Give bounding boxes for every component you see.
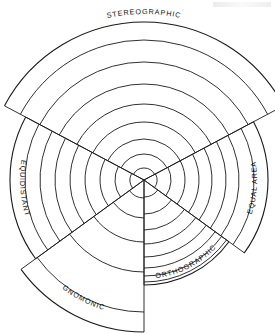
parallel-arc bbox=[55, 138, 72, 232]
parallel-arc bbox=[144, 225, 206, 257]
parallel-arc bbox=[59, 84, 229, 135]
label-stereographic: STEREOGRAPHIC bbox=[106, 7, 182, 20]
parallel-arc bbox=[77, 104, 211, 144]
parallel-arc bbox=[70, 234, 144, 272]
sector-boundary-line bbox=[26, 117, 144, 180]
parallel-arc bbox=[199, 148, 212, 220]
parallel-arc bbox=[177, 161, 185, 204]
parallel-arc bbox=[113, 202, 144, 218]
parallel-arc bbox=[25, 124, 48, 250]
label-equidistant: EQUIDISTANT bbox=[18, 160, 32, 218]
parallel-arc bbox=[133, 168, 154, 174]
parallel-arc bbox=[189, 154, 200, 212]
sector-arc-group bbox=[4, 22, 275, 332]
parallel-arc bbox=[40, 131, 60, 241]
parallel-arc bbox=[93, 122, 195, 153]
parallel-arc bbox=[4, 22, 275, 106]
parallel-arc bbox=[94, 216, 144, 242]
parallel-arc bbox=[144, 190, 158, 197]
sector-label-group: STEREOGRAPHIC EQUIDISTANT EQUAL AREA ORT… bbox=[18, 7, 259, 312]
label-equal-area: EQUAL AREA bbox=[245, 160, 259, 215]
sector-boundary-line bbox=[144, 180, 229, 242]
parallel-arc bbox=[144, 200, 172, 214]
scan-artifact bbox=[213, 2, 271, 7]
projection-diagram: STEREOGRAPHIC EQUIDISTANT EQUAL AREA ORT… bbox=[0, 0, 275, 333]
parallel-arc bbox=[221, 135, 239, 235]
sector-boundary-line bbox=[21, 180, 144, 269]
label-gnomonic: GNOMONIC bbox=[61, 283, 107, 312]
projection-rosette-svg: STEREOGRAPHIC EQUIDISTANT EQUAL AREA ORT… bbox=[0, 0, 275, 333]
parallel-arc bbox=[108, 139, 180, 161]
parallel-arc bbox=[100, 159, 108, 206]
parallel-arc bbox=[40, 62, 248, 125]
parallel-arc bbox=[210, 142, 226, 229]
parallel-arc bbox=[121, 154, 167, 168]
parallel-arc bbox=[155, 174, 157, 188]
parallel-arc bbox=[129, 191, 144, 198]
label-orthographic: ORTHOGRAPHIC bbox=[155, 242, 218, 280]
parallel-arc bbox=[115, 166, 121, 197]
parallel-arc bbox=[130, 173, 133, 188]
parallel-arc bbox=[144, 218, 196, 244]
parallel-arc bbox=[144, 209, 184, 230]
parallel-arc bbox=[20, 40, 267, 114]
parallel-arc bbox=[70, 145, 84, 223]
radial-divider-group bbox=[4, 106, 275, 332]
parallel-arc bbox=[85, 152, 96, 214]
parallel-arc bbox=[166, 167, 171, 196]
